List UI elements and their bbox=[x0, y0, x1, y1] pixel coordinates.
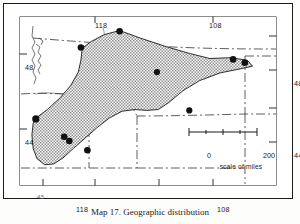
tick-label-latitude-left-48: 48 bbox=[25, 64, 34, 71]
tick-label-latitude-right-44: 44 bbox=[294, 152, 300, 159]
figure-root: 118 108 118 108 48 44 48 44 45 0 200 sca… bbox=[0, 0, 300, 224]
tick-label-corner-mark: 45 bbox=[37, 194, 44, 200]
scale-bar: 0 200 scale of miles bbox=[205, 152, 277, 170]
locality-point bbox=[32, 115, 39, 122]
scale-bar-caption: scale of miles bbox=[205, 163, 277, 170]
locality-point bbox=[78, 44, 85, 51]
scale-bar-numbers: 0 200 bbox=[205, 152, 277, 161]
figure-caption: Map 17. Geographic distribution bbox=[0, 207, 300, 217]
locality-point bbox=[84, 147, 91, 154]
locality-point bbox=[116, 28, 123, 35]
locality-point bbox=[61, 133, 68, 140]
locality-point bbox=[230, 56, 237, 63]
locality-point bbox=[186, 107, 192, 113]
tick-label-latitude-left-44: 44 bbox=[25, 139, 34, 146]
locality-point bbox=[154, 69, 160, 75]
tick-label-longitude-top-118: 118 bbox=[95, 22, 107, 29]
tick-label-latitude-right-48: 48 bbox=[294, 80, 300, 87]
scale-bar-max-label: 200 bbox=[263, 152, 275, 159]
tick-label-longitude-top-108: 108 bbox=[209, 22, 222, 29]
scale-bar-min-label: 0 bbox=[207, 152, 211, 159]
locality-point bbox=[242, 60, 249, 67]
map-area: 118 108 118 108 48 44 48 44 45 0 200 sca… bbox=[19, 16, 277, 186]
locality-point bbox=[66, 138, 73, 145]
